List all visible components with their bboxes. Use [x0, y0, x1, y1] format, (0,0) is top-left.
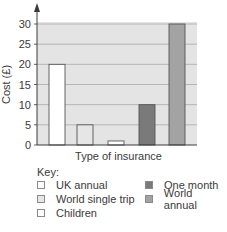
bar-chart: 051015202530Cost (£) Type of insurance K… — [0, 0, 227, 232]
plot-area: 051015202530Cost (£) — [0, 0, 227, 150]
legend-swatch — [37, 181, 45, 189]
y-tick-label: 15 — [19, 79, 31, 91]
y-tick-label: 20 — [19, 58, 31, 70]
bar-children — [108, 141, 124, 145]
legend-swatch — [37, 195, 45, 203]
legend-label: Children — [56, 207, 97, 219]
legend-label: World single trip — [56, 193, 135, 205]
y-tick-label: 0 — [25, 139, 31, 150]
y-tick-label: 10 — [19, 99, 31, 111]
y-tick-label: 25 — [19, 38, 31, 50]
bar-world-single-trip — [77, 125, 93, 145]
legend-item-uk-annual: UK annual — [37, 178, 107, 192]
y-axis-label: Cost (£) — [0, 65, 12, 104]
legend-item-world-single-trip: World single trip — [37, 192, 135, 206]
legend-label: World annual — [164, 187, 227, 211]
legend-swatch — [145, 195, 153, 203]
legend-item-children: Children — [37, 206, 97, 220]
bar-uk-annual — [49, 64, 65, 145]
legend-swatch — [37, 209, 45, 217]
legend-swatch — [145, 181, 153, 189]
legend-title: Key: — [37, 166, 59, 178]
y-tick-label: 30 — [19, 18, 31, 30]
y-tick-label: 5 — [25, 119, 31, 131]
bar-one-month — [139, 105, 155, 145]
x-axis-label: Type of insurance — [40, 150, 197, 162]
legend-item-world-annual: World annual — [145, 192, 227, 206]
bar-world-annual — [169, 24, 185, 145]
y-axis-arrow-icon — [34, 3, 40, 12]
legend-label: UK annual — [56, 179, 107, 191]
